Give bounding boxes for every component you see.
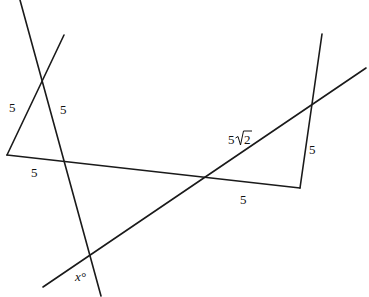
long-left-transversal <box>20 0 101 296</box>
label-bottom-right: 5 <box>240 192 247 207</box>
short-left-segment <box>7 35 64 155</box>
svg-text:2: 2 <box>244 132 251 147</box>
svg-text:5: 5 <box>228 132 235 147</box>
label-angle-x: x° <box>74 269 86 284</box>
label-diagonal-5-root-2: 5 2 <box>228 131 252 147</box>
diagram-svg: 5 5 5 5 2 5 5 x° <box>0 0 369 297</box>
bottom-segment <box>7 155 300 188</box>
long-diagonal <box>43 68 366 287</box>
label-right-side: 5 <box>309 142 316 157</box>
label-left-side: 5 <box>9 100 16 115</box>
label-bottom-left: 5 <box>31 165 38 180</box>
geometry-diagram: 5 5 5 5 2 5 5 x° <box>0 0 369 297</box>
label-mid-side: 5 <box>60 102 67 117</box>
